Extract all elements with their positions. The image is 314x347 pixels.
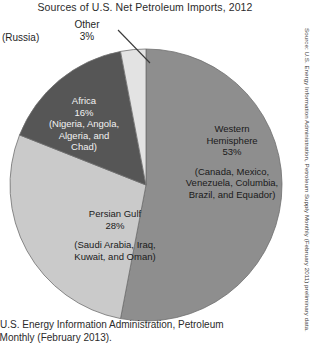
- slice-label-gulf-percent: 28%: [36, 220, 194, 232]
- source-caption-line-2: ply Monthly (February 2013).: [0, 331, 284, 344]
- slice-label-gulf-name: Persian Gulf: [36, 208, 194, 220]
- pie-chart: Other 3% (Russia) Africa 16% (Nigeria, A…: [0, 0, 290, 320]
- source-credit-vertical-text: Source: U.S. Energy Information Administ…: [304, 28, 311, 332]
- source-caption-line-1: ce: U.S. Energy Information Administrati…: [0, 318, 284, 331]
- slice-label-gulf-detail-2: Kuwait, and Oman): [74, 251, 155, 262]
- slice-label-africa-detail-2: Algeria, and: [20, 130, 148, 142]
- slice-label-africa-name: Africa: [20, 95, 148, 107]
- slice-label-western-name-1: Western: [176, 123, 288, 135]
- slice-label-persian-gulf: Persian Gulf 28% (Saudi Arabia, Iraq, Ku…: [36, 208, 194, 262]
- slice-label-africa-detail-1: (Nigeria, Angola,: [20, 118, 148, 130]
- callout-other: Other 3%: [55, 19, 119, 43]
- slice-label-western-percent: 53%: [176, 146, 288, 158]
- source-caption: ce: U.S. Energy Information Administrati…: [0, 318, 284, 344]
- slice-label-africa-percent: 16%: [20, 107, 148, 119]
- slice-label-africa: Africa 16% (Nigeria, Angola, Algeria, an…: [20, 95, 148, 153]
- callout-other-name: Other: [74, 19, 99, 30]
- callout-other-percent: 3%: [80, 31, 94, 42]
- slice-label-western-detail-1: (Canada, Mexico,: [176, 166, 288, 178]
- slice-label-western-hemisphere: Western Hemisphere 53% (Canada, Mexico, …: [176, 123, 288, 200]
- slice-label-gulf-detail-1: (Saudi Arabia, Iraq,: [36, 239, 194, 251]
- source-credit-vertical: Source: U.S. Energy Information Administ…: [301, 0, 314, 347]
- slice-label-western-name-2: Hemisphere: [176, 135, 288, 147]
- slice-label-western-detail-4: and Equador): [218, 189, 276, 200]
- slice-label-western-detail-2: Venezuela,: [186, 177, 233, 188]
- callout-russia-label: (Russia): [2, 32, 39, 43]
- slice-label-africa-detail-3: Chad): [20, 141, 148, 153]
